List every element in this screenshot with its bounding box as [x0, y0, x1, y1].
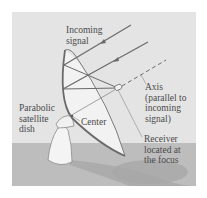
label-axis: Axis (parallel to incoming signal): [145, 82, 186, 124]
label-receiver: Receiver located at the focus: [144, 134, 181, 166]
center-point: [71, 115, 73, 117]
label-center: Center: [81, 117, 106, 128]
label-incoming-signal: Incoming signal: [66, 25, 102, 46]
dish-face: [63, 50, 125, 156]
arrowhead-2: [113, 57, 119, 62]
label-parabolic-dish: Parabolic satellite dish: [19, 103, 55, 135]
receiver-leader: [118, 90, 142, 137]
